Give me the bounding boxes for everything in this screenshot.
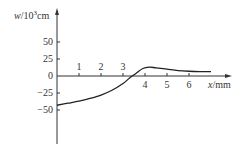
x-tick-label: 3: [121, 61, 126, 72]
y-tick-label: 50: [43, 36, 53, 47]
y-tick-label: 0: [48, 70, 53, 81]
y-axis-arrow-icon: [55, 8, 59, 15]
chart: 50 25 0 −25 −50 1 2 3 4 5 6 w/103cm x/mm: [0, 0, 245, 148]
y-tick-label: −50: [37, 104, 53, 115]
x-tick-label: 1: [77, 61, 82, 72]
x-tick-label: 4: [143, 79, 148, 90]
x-tick-label: 5: [165, 79, 170, 90]
y-axis-label: w/103cm: [14, 9, 49, 21]
x-axis-label: x/mm: [207, 79, 231, 90]
y-tick-label: 25: [43, 53, 53, 64]
x-tick-label: 6: [187, 79, 192, 90]
y-tick-label: −25: [37, 87, 53, 98]
x-axis-arrow-icon: [225, 74, 232, 78]
x-tick-label: 2: [99, 61, 104, 72]
